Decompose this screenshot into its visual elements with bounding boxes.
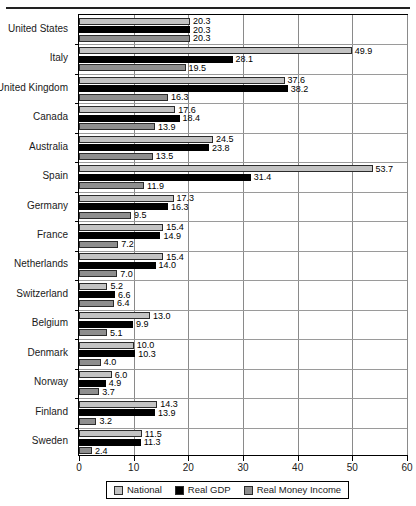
bar <box>79 203 168 210</box>
category-separator <box>79 251 407 252</box>
chart-figure: United StatesItalyUnited KingdomCanadaAu… <box>0 0 416 506</box>
x-tick-60 <box>407 456 408 461</box>
category-separator <box>79 428 407 429</box>
bar-value-label: 49.9 <box>355 47 373 56</box>
legend-label: Real GDP <box>188 485 231 495</box>
bar <box>79 321 133 328</box>
bar-value-label: 16.3 <box>171 203 189 212</box>
top-divider-rule <box>6 7 410 9</box>
x-tick-label-20: 20 <box>183 463 194 473</box>
category-tick <box>75 428 79 429</box>
y-axis-label-united-kingdom: United Kingdom <box>0 83 68 93</box>
y-axis-label-switzerland: Switzerland <box>16 289 68 299</box>
bar-group: 15.414.07.0 <box>79 251 407 280</box>
bar-value-label: 9.9 <box>136 320 149 329</box>
bar-group: 17.618.413.9 <box>79 103 407 132</box>
category-tick <box>75 162 79 163</box>
category-tick <box>75 192 79 193</box>
bar <box>79 312 150 319</box>
bar <box>79 136 213 143</box>
bar-group: 53.731.411.9 <box>79 162 407 191</box>
bar <box>79 430 142 437</box>
category-tick <box>75 339 79 340</box>
category-separator <box>79 280 407 281</box>
bar <box>79 26 190 33</box>
plot-area: 20.320.320.349.928.119.537.638.216.317.6… <box>78 14 408 456</box>
bar-value-label: 10.3 <box>138 350 156 359</box>
legend-label: Real Money Income <box>257 485 341 495</box>
bar-value-label: 13.9 <box>158 123 176 132</box>
bar <box>79 241 118 248</box>
y-axis-label-sweden: Sweden <box>32 436 68 446</box>
category-tick <box>75 398 79 399</box>
legend-swatch-icon <box>244 486 253 495</box>
y-axis-label-norway: Norway <box>34 377 68 387</box>
bar <box>79 342 134 349</box>
y-axis-label-finland: Finland <box>35 407 68 417</box>
bar <box>79 300 114 307</box>
y-axis-category-labels: United StatesItalyUnited KingdomCanadaAu… <box>0 14 74 456</box>
bar-group: 20.320.320.3 <box>79 15 407 44</box>
y-axis-label-canada: Canada <box>33 112 68 122</box>
bar <box>79 85 288 92</box>
bar <box>79 291 115 298</box>
legend-item[interactable]: Real GDP <box>175 485 231 495</box>
x-tick-label-40: 40 <box>292 463 303 473</box>
bar <box>79 418 96 425</box>
x-tick-40 <box>298 456 299 461</box>
bar <box>79 232 160 239</box>
bar-value-label: 38.2 <box>291 85 309 94</box>
bar <box>79 35 190 42</box>
bar <box>79 47 352 54</box>
bar-group: 37.638.216.3 <box>79 74 407 103</box>
bar <box>79 401 157 408</box>
x-tick-10 <box>134 456 135 461</box>
bar <box>79 409 155 416</box>
category-tick <box>75 310 79 311</box>
category-separator <box>79 162 407 163</box>
y-axis-label-netherlands: Netherlands <box>14 259 68 269</box>
bar-value-label: 7.0 <box>120 270 133 279</box>
bar <box>79 94 168 101</box>
x-axis: 0102030405060 <box>78 456 408 480</box>
bar <box>79 182 144 189</box>
bar <box>79 64 186 71</box>
bar <box>79 115 180 122</box>
bar-group: 15.414.97.2 <box>79 221 407 250</box>
bar-group: 11.511.32.4 <box>79 428 407 457</box>
bar-value-label: 9.5 <box>134 211 147 220</box>
bar <box>79 371 112 378</box>
x-tick-30 <box>243 456 244 461</box>
bar <box>79 262 156 269</box>
category-separator <box>79 339 407 340</box>
bar-groups: 20.320.320.349.928.119.537.638.216.317.6… <box>79 15 407 455</box>
bar-value-label: 31.4 <box>254 173 272 182</box>
legend-item[interactable]: National <box>114 485 162 495</box>
bar <box>79 388 99 395</box>
legend-swatch-icon <box>114 486 123 495</box>
category-tick <box>75 369 79 370</box>
bar-value-label: 5.1 <box>110 329 123 338</box>
category-tick <box>75 103 79 104</box>
category-tick <box>75 221 79 222</box>
bar-value-label: 11.9 <box>147 182 164 191</box>
x-tick-20 <box>188 456 189 461</box>
bar <box>79 350 135 357</box>
bar-value-label: 7.2 <box>121 240 134 249</box>
category-tick <box>75 280 79 281</box>
bar-value-label: 13.5 <box>156 152 174 161</box>
legend-swatch-icon <box>175 486 184 495</box>
bar <box>79 224 163 231</box>
x-tick-0 <box>79 456 80 461</box>
gridline-60 <box>407 15 408 455</box>
bar-group: 5.26.66.4 <box>79 280 407 309</box>
category-separator <box>79 133 407 134</box>
bar-value-label: 20.3 <box>193 34 211 43</box>
y-axis-label-denmark: Denmark <box>27 348 68 358</box>
bar <box>79 174 251 181</box>
bar-value-label: 2.4 <box>95 447 108 456</box>
bar <box>79 18 190 25</box>
legend-item[interactable]: Real Money Income <box>244 485 341 495</box>
x-tick-label-50: 50 <box>347 463 358 473</box>
legend-label: National <box>127 485 162 495</box>
